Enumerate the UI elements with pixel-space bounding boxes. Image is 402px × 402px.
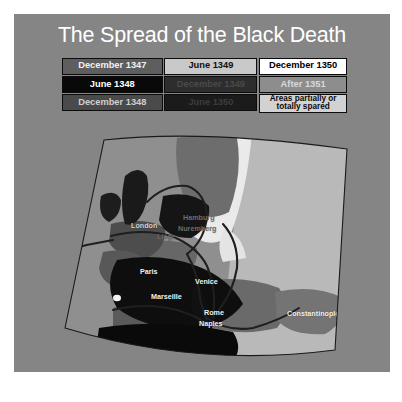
legend-label: December 1349	[177, 80, 245, 89]
region-north-africa	[93, 324, 238, 370]
city-label-marseille: Marseille	[151, 292, 182, 301]
city-label-liege: Liège	[157, 232, 176, 241]
city-label-naples: Naples	[199, 319, 223, 328]
legend-label: December 1350	[269, 61, 337, 70]
legend-label: After 1351	[281, 80, 326, 89]
legend-swatch-spared-areas: Areas partially or totally spared	[259, 94, 347, 113]
map-body: London Hamburg Nuremberg Liège Paris Ven…	[47, 132, 357, 370]
legend-row: December 1348 June 1350 Areas partially …	[61, 93, 348, 113]
legend-label: June 1350	[188, 98, 233, 107]
city-label-paris: Paris	[140, 267, 158, 276]
legend-table: December 1347 June 1349 December 1350 Ju…	[61, 57, 348, 114]
page-title: The Spread of the Black Death	[14, 23, 390, 48]
map-canvas: London Hamburg Nuremberg Liège Paris Ven…	[47, 132, 357, 370]
legend-swatch-december-1348: December 1348	[62, 94, 163, 111]
city-label-venice: Venice	[195, 277, 218, 286]
legend-label: December 1348	[78, 98, 146, 107]
legend-swatch-after-1351: After 1351	[259, 76, 347, 93]
presentation-slide: The Spread of the Black Death December 1…	[14, 14, 390, 372]
map-white-accent	[113, 295, 121, 301]
legend-label: June 1349	[188, 61, 233, 70]
slide-page: The Spread of the Black Death December 1…	[0, 0, 402, 402]
legend-swatch-june-1348: June 1348	[62, 76, 163, 93]
black-death-spread-map: London Hamburg Nuremberg Liège Paris Ven…	[47, 132, 357, 370]
city-label-hamburg: Hamburg	[183, 213, 215, 222]
legend-label: December 1347	[78, 61, 146, 70]
legend-swatch-december-1349: December 1349	[164, 76, 257, 93]
legend-swatch-december-1347: December 1347	[62, 58, 163, 75]
city-label-london: London	[131, 221, 157, 230]
legend-row: December 1347 June 1349 December 1350	[61, 57, 348, 75]
legend-swatch-june-1350: June 1350	[164, 94, 257, 111]
legend-label: Areas partially or totally spared	[260, 95, 346, 112]
city-label-rome: Rome	[204, 308, 224, 317]
legend-row: June 1348 December 1349 After 1351	[61, 75, 348, 93]
legend-label: June 1348	[90, 80, 135, 89]
legend-swatch-june-1349: June 1349	[164, 58, 257, 75]
legend-swatch-december-1350: December 1350	[259, 58, 347, 75]
city-label-nuremberg: Nuremberg	[178, 224, 216, 233]
city-label-constantinople: Constantinople	[287, 309, 339, 318]
